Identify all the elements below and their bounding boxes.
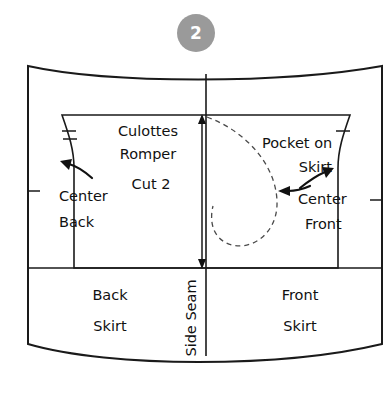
pattern-title-line2: Romper xyxy=(120,146,177,162)
label-front-skirt-line2: Skirt xyxy=(283,318,317,334)
step-badge: 2 xyxy=(177,14,215,52)
label-front-skirt-line1: Front xyxy=(282,287,319,303)
label-side-seam: Side Seam xyxy=(183,279,199,356)
cut-instruction: Cut 2 xyxy=(132,176,171,192)
culottes-romper-pattern-diagram: 2 xyxy=(0,0,392,395)
pattern-diagram-canvas: 2 xyxy=(0,0,392,395)
label-back-skirt-line2: Skirt xyxy=(93,318,127,334)
label-pocket-line2: Skirt xyxy=(299,159,333,175)
step-badge-number: 2 xyxy=(190,23,202,43)
label-center-back-line1: Center xyxy=(59,188,108,204)
label-center-back-line2: Back xyxy=(59,214,95,230)
pattern-title-line1: Culottes xyxy=(118,123,178,139)
label-back-skirt-line1: Back xyxy=(92,287,128,303)
label-center-front-line1: Center xyxy=(298,191,347,207)
label-center-front-line2: Front xyxy=(305,216,342,232)
label-pocket-line1: Pocket on xyxy=(262,135,332,151)
